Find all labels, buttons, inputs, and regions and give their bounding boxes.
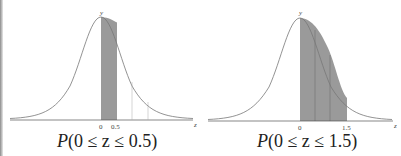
left-y-label: y [99,9,104,17]
left-caption-p: P [57,131,68,151]
left-tick-0: 0 [99,123,103,131]
left-x-label: z [193,121,197,129]
right-x-label: z [393,122,397,130]
left-chart: y 0 0.5 z [10,9,197,131]
left-caption: P(0 ≤ z ≤ 0.5) [57,131,157,152]
right-chart: y 0 1.5 z [208,9,397,132]
right-caption-text: (0 ≤ z ≤ 1.5) [268,131,357,151]
left-tick-0-5: 0.5 [111,123,120,131]
right-caption: P(0 ≤ z ≤ 1.5) [257,131,357,152]
left-caption-text: (0 ≤ z ≤ 0.5) [68,131,157,151]
right-caption-p: P [257,131,268,151]
right-shaded-area [300,18,347,121]
right-y-label: y [298,9,303,17]
left-shaded-area [101,17,117,120]
